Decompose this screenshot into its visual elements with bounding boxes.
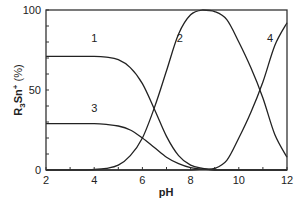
curve-2 xyxy=(46,10,287,170)
x-axis-label: pH xyxy=(159,186,174,198)
axis-ticks xyxy=(46,10,287,170)
x-tick-label: 10 xyxy=(233,174,245,186)
y-tick-labels: 050100 xyxy=(23,4,41,176)
y-tick-label: 100 xyxy=(23,4,41,16)
curve-label-4: 4 xyxy=(267,32,273,44)
curve-label-2: 2 xyxy=(177,32,183,44)
curve-4 xyxy=(46,23,287,170)
x-tick-label: 6 xyxy=(139,174,145,186)
x-tick-label: 4 xyxy=(91,174,97,186)
y-axis-label: R3Sn+ (%) xyxy=(11,64,27,115)
plot-frame xyxy=(46,10,287,170)
curve-label-1: 1 xyxy=(91,32,97,44)
curve-labels: 1234 xyxy=(91,32,273,114)
y-tick-label: 0 xyxy=(35,164,41,176)
x-tick-labels: 24681012 xyxy=(43,174,293,186)
curve-3 xyxy=(46,124,287,170)
curves xyxy=(46,10,287,170)
x-tick-label: 8 xyxy=(188,174,194,186)
curve-label-3: 3 xyxy=(91,102,97,114)
x-tick-label: 2 xyxy=(43,174,49,186)
x-tick-label: 12 xyxy=(281,174,293,186)
speciation-chart: 24681012 050100 1234 pH R3Sn+ (%) xyxy=(0,0,304,207)
y-tick-label: 50 xyxy=(29,84,41,96)
